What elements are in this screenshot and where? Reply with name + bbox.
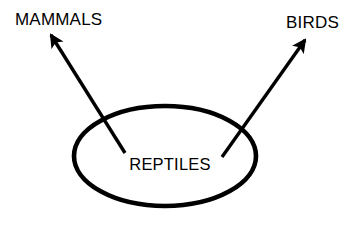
reptiles-label: REPTILES — [129, 155, 210, 173]
mammals-label: MAMMALS — [15, 10, 102, 29]
birds-label: BIRDS — [286, 13, 339, 32]
diagram-svg: MAMMALS BIRDS REPTILES — [0, 0, 344, 225]
diagram-canvas: MAMMALS BIRDS REPTILES — [0, 0, 344, 225]
birds-arrow-line — [222, 40, 305, 157]
mammals-arrow-line — [51, 35, 125, 153]
